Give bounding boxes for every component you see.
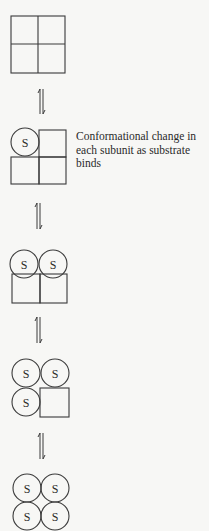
subunit-square <box>39 157 66 184</box>
state-1-bound: S <box>11 128 66 184</box>
subunit-square <box>39 130 66 157</box>
substrate-label: S <box>22 136 29 150</box>
substrate-label: S <box>24 482 31 496</box>
substrate-label: S <box>52 482 59 496</box>
caption-line: binds <box>76 157 209 171</box>
substrate-label: S <box>23 396 30 410</box>
caption-line: each subunit as substrate <box>76 144 209 158</box>
state-3-bound: S S S <box>12 359 69 417</box>
equilibrium-arrow-icon <box>38 433 45 459</box>
equilibrium-arrow-icon <box>38 89 45 114</box>
substrate-label: S <box>21 258 28 272</box>
state-0-bound <box>11 16 65 73</box>
equilibrium-arrow-icon <box>35 203 42 229</box>
conformational-change-caption: Conformational change in each subunit as… <box>76 130 209 171</box>
enzyme-binding-diagram: S S S S S S <box>0 0 209 531</box>
state-2-bound: S S <box>10 250 67 303</box>
substrate-label: S <box>52 510 59 524</box>
substrate-label: S <box>24 510 31 524</box>
substrate-label: S <box>23 367 30 381</box>
caption-line: Conformational change in <box>76 130 209 144</box>
state-4-bound: S S S S <box>13 474 69 530</box>
substrate-label: S <box>50 258 57 272</box>
equilibrium-arrow-icon <box>35 317 42 343</box>
subunit-square <box>11 157 39 184</box>
subunit-square <box>40 388 69 417</box>
substrate-label: S <box>52 367 59 381</box>
